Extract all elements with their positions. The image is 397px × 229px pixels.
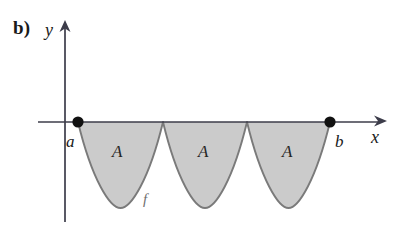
part-label: b): [13, 18, 31, 37]
endpoint-marker-b: [324, 116, 335, 127]
endpoint-label-a: a: [66, 133, 75, 150]
area-label-2: A: [198, 143, 208, 160]
diagram-svg: [0, 0, 397, 229]
function-label-f: f: [143, 192, 147, 207]
area-label-3: A: [282, 143, 292, 160]
area-label-1: A: [112, 143, 122, 160]
x-axis-arrowhead-icon: [374, 116, 387, 127]
endpoint-label-b: b: [335, 133, 344, 150]
endpoint-marker-a: [72, 116, 83, 127]
shaded-area-under-curve: [78, 122, 330, 208]
y-axis-label: y: [45, 21, 53, 39]
x-axis-label: x: [371, 128, 379, 146]
figure-canvas: b) y x a b A A A f: [0, 0, 397, 229]
